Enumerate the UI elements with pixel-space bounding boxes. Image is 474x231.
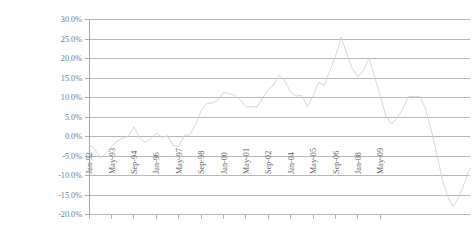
y-tick-label: -10.0% — [58, 171, 82, 180]
x-tick-label: Sep-98 — [197, 151, 206, 174]
x-tick-label: Sep-06 — [332, 151, 341, 174]
y-tick-label: 5.0% — [65, 113, 82, 122]
line-chart-plot: 30.0%25.0%20.0%15.0%10.0%5.0%0.0%-5.0%-1… — [0, 0, 474, 231]
data-series-line — [89, 37, 470, 207]
x-tick-label: May-93 — [108, 148, 117, 174]
chart-container: Annual % Change 30.0%25.0%20.0%15.0%10.0… — [0, 0, 474, 231]
y-tick-label: 10.0% — [61, 93, 82, 102]
x-tick-label: May-05 — [309, 148, 318, 174]
x-tick-label: Jan-92 — [85, 152, 94, 174]
data-series-group — [89, 37, 470, 207]
x-tick-label: May-97 — [175, 148, 184, 174]
y-tick-label: 25.0% — [61, 35, 82, 44]
y-tick-label: 15.0% — [61, 74, 82, 83]
x-tick-label: Sep-94 — [130, 151, 139, 174]
x-tick-label: Jan-00 — [220, 152, 229, 174]
y-tick-label: -20.0% — [58, 210, 82, 219]
y-tick-label: -15.0% — [58, 191, 82, 200]
y-tick-label: -5.0% — [62, 152, 82, 161]
x-tick-label: Jan-96 — [152, 152, 161, 174]
x-tick-label: Jan-04 — [287, 152, 296, 174]
x-axis-tick-labels: Jan-92May-93Sep-94Jan-96May-97Sep-98Jan-… — [85, 148, 385, 174]
y-tick-label: 30.0% — [61, 15, 82, 24]
y-axis-tick-labels: 30.0%25.0%20.0%15.0%10.0%5.0%0.0%-5.0%-1… — [58, 15, 82, 219]
x-tick-label: May-01 — [242, 148, 251, 174]
gridlines-group — [89, 20, 470, 215]
y-tick-label: 0.0% — [65, 132, 82, 141]
x-tick-label: May-09 — [376, 148, 385, 174]
axis-tickmarks — [85, 20, 381, 219]
x-tick-label: Sep-02 — [264, 151, 273, 174]
y-tick-label: 20.0% — [61, 54, 82, 63]
x-tick-label: Jan-08 — [354, 152, 363, 174]
